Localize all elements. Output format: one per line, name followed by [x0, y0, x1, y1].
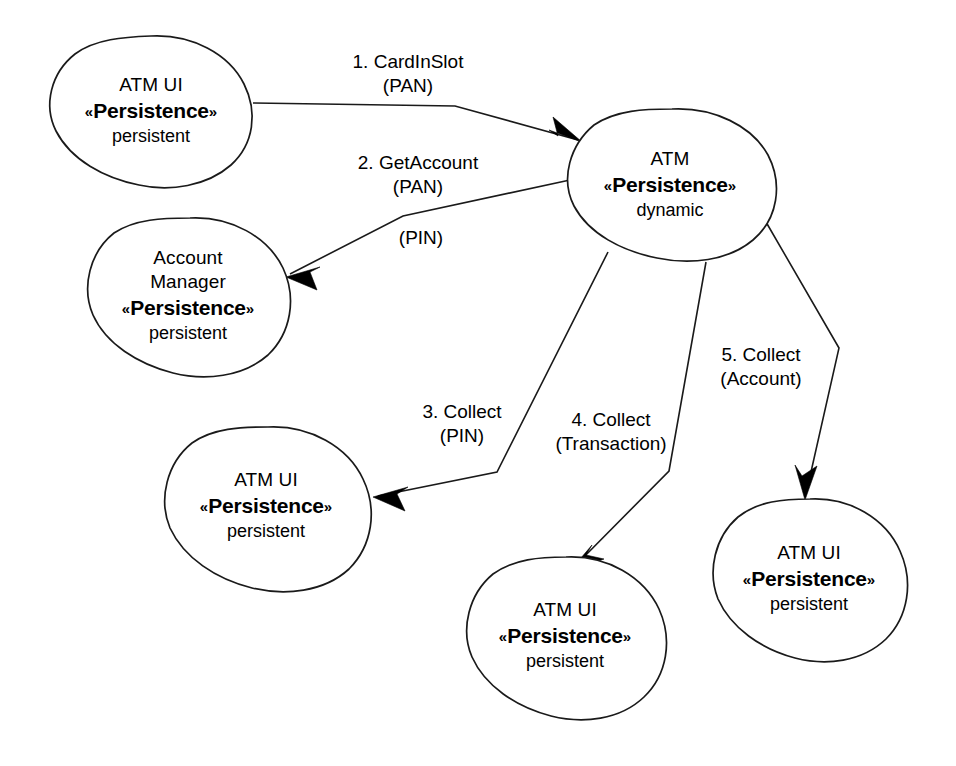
- edge-label-msg-2-pin[interactable]: (PIN): [399, 226, 443, 250]
- node-stereotype-atm-ui-5: «Persistence»: [743, 565, 875, 593]
- edge-label-msg-4-seq: 4. Collect: [555, 408, 666, 432]
- node-name-account-manager-a: Account: [122, 246, 254, 270]
- stereotype-text: Persistence: [751, 567, 867, 590]
- arrowhead-1: [549, 117, 582, 142]
- node-name-atm-dynamic: ATM: [604, 147, 736, 171]
- node-tag-atm-ui-1: persistent: [85, 125, 217, 148]
- edge-label-msg-2-seq: 2. GetAccount: [358, 151, 478, 175]
- edge-label-msg-5[interactable]: 5. Collect (Account): [720, 343, 801, 391]
- node-stereotype-atm-ui-4: «Persistence»: [499, 622, 631, 650]
- node-tag-atm-ui-5: persistent: [743, 593, 875, 616]
- node-label-atm-dynamic: ATM «Persistence» dynamic: [604, 147, 736, 222]
- edge-label-msg-2[interactable]: 2. GetAccount (PAN): [358, 151, 478, 199]
- guillemet-close-icon: »: [867, 571, 875, 588]
- edge-label-msg-5-seq: 5. Collect: [720, 343, 801, 367]
- node-name-atm-ui-4: ATM UI: [499, 598, 631, 622]
- edge-label-msg-3[interactable]: 3. Collect (PIN): [422, 400, 501, 448]
- node-label-atm-ui-3: ATM UI «Persistence» persistent: [200, 468, 332, 543]
- stereotype-text: Persistence: [208, 494, 324, 517]
- node-stereotype-atm-dynamic: «Persistence»: [604, 171, 736, 199]
- guillemet-close-icon: »: [623, 628, 631, 645]
- node-tag-account-manager: persistent: [122, 322, 254, 345]
- edge-label-msg-3-args: (PIN): [422, 424, 501, 448]
- node-stereotype-account-manager: «Persistence»: [122, 294, 254, 322]
- node-name-account-manager-b: Manager: [122, 270, 254, 294]
- node-name-atm-ui-5: ATM UI: [743, 541, 875, 565]
- guillemet-close-icon: »: [324, 498, 332, 515]
- node-tag-atm-ui-4: persistent: [499, 650, 631, 673]
- guillemet-close-icon: »: [728, 177, 736, 194]
- arrowhead-2: [286, 267, 320, 290]
- node-stereotype-atm-ui-3: «Persistence»: [200, 492, 332, 520]
- node-label-atm-ui-1: ATM UI «Persistence» persistent: [85, 73, 217, 148]
- arrowhead-3: [373, 487, 408, 511]
- stereotype-text: Persistence: [612, 173, 728, 196]
- stereotype-text: Persistence: [507, 624, 623, 647]
- node-tag-atm-ui-3: persistent: [200, 520, 332, 543]
- edge-3-collect-pin[interactable]: [378, 252, 608, 496]
- edge-label-msg-5-args: (Account): [720, 367, 801, 391]
- node-label-atm-ui-4: ATM UI «Persistence» persistent: [499, 598, 631, 673]
- guillemet-close-icon: »: [209, 103, 217, 120]
- arrowhead-5: [795, 465, 817, 500]
- node-name-atm-ui-1: ATM UI: [85, 73, 217, 97]
- edge-1-cardinslot[interactable]: [253, 103, 578, 140]
- node-stereotype-atm-ui-1: «Persistence»: [85, 97, 217, 125]
- node-tag-atm-dynamic: dynamic: [604, 199, 736, 222]
- stereotype-text: Persistence: [93, 99, 209, 122]
- edge-label-msg-4-args: (Transaction): [555, 432, 666, 456]
- node-name-atm-ui-3: ATM UI: [200, 468, 332, 492]
- edge-label-msg-1[interactable]: 1. CardInSlot (PAN): [353, 50, 464, 98]
- edge-label-msg-3-seq: 3. Collect: [422, 400, 501, 424]
- guillemet-close-icon: »: [246, 300, 254, 317]
- node-label-atm-ui-5: ATM UI «Persistence» persistent: [743, 541, 875, 616]
- edge-label-msg-4[interactable]: 4. Collect (Transaction): [555, 408, 666, 456]
- node-label-account-manager: Account Manager «Persistence» persistent: [122, 246, 254, 345]
- edge-label-msg-2-args: (PAN): [358, 175, 478, 199]
- edge-label-msg-1-args: (PAN): [353, 74, 464, 98]
- stereotype-text: Persistence: [130, 296, 246, 319]
- edge-label-msg-2-pin-args: (PIN): [399, 226, 443, 250]
- diagram-canvas: ATM UI «Persistence» persistent ATM «Per…: [0, 0, 956, 766]
- edge-label-msg-1-seq: 1. CardInSlot: [353, 50, 464, 74]
